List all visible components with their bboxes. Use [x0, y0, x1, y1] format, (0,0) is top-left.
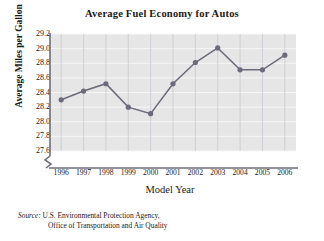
data-point-marker [237, 67, 242, 72]
y-axis-break-zigzag [45, 156, 51, 168]
source-line-2: Office of Transportation and Air Quality [18, 221, 318, 231]
data-point-marker [126, 105, 131, 110]
data-point-marker [260, 67, 265, 72]
data-point-marker [193, 60, 198, 65]
source-label: Source: [18, 211, 41, 220]
x-tick-label: 2006 [270, 168, 300, 177]
data-point-marker [282, 53, 287, 58]
fuel-economy-chart-figure: Average Fuel Economy for Autos Average M… [0, 0, 324, 241]
data-point-marker [170, 81, 175, 86]
data-point-marker [81, 88, 86, 93]
data-point-marker [215, 45, 220, 50]
x-axis-title: Model Year [44, 184, 296, 195]
source-note: Source: U.S. Environmental Protection Ag… [18, 211, 318, 230]
data-point-marker [103, 81, 108, 86]
data-point-marker [59, 97, 64, 102]
plot-area [0, 0, 324, 241]
source-line-1: U.S. Environmental Protection Agency, [43, 211, 160, 220]
data-point-marker [148, 111, 153, 116]
